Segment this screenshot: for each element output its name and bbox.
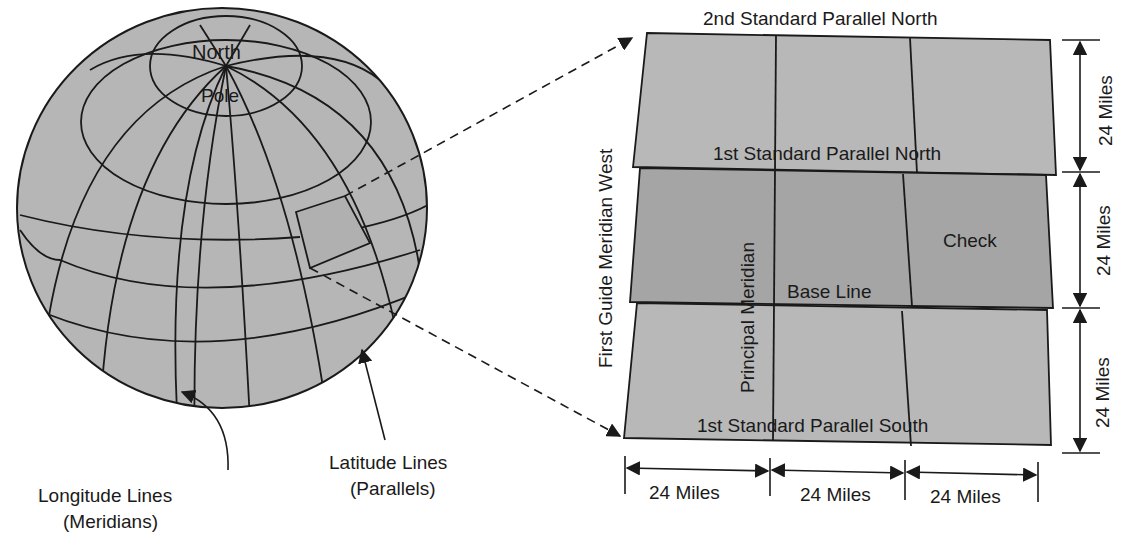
horizontal-dim-label-3: 24 Miles (930, 487, 1001, 506)
first-guide-meridian-west-label: First Guide Meridian West (596, 149, 615, 368)
horizontal-dim-label-2: 24 Miles (800, 485, 871, 504)
first-standard-parallel-south-label: 1st Standard Parallel South (697, 416, 928, 435)
pole-label: Pole (201, 86, 239, 105)
longitude-label-2: (Meridians) (63, 512, 158, 531)
globe (17, 8, 428, 460)
longitude-label-1: Longitude Lines (38, 486, 172, 505)
latitude-label-1: Latitude Lines (329, 453, 447, 472)
horizontal-dim-label-1: 24 Miles (649, 483, 720, 502)
vertical-dim-label-1: 24 Miles (1096, 75, 1115, 146)
base-line-label: Base Line (787, 282, 872, 301)
first-standard-parallel-north-label: 1st Standard Parallel North (713, 144, 941, 163)
principal-meridian-label: Principal Meridian (738, 242, 757, 393)
north-label: North (192, 42, 241, 62)
check-label: Check (943, 231, 997, 250)
second-standard-parallel-north-label: 2nd Standard Parallel North (703, 9, 937, 28)
vertical-dim-label-3: 24 Miles (1093, 357, 1112, 428)
latitude-label-2: (Parallels) (350, 479, 436, 498)
vertical-dim-label-2: 24 Miles (1094, 205, 1113, 276)
diagram-canvas (0, 0, 1129, 542)
